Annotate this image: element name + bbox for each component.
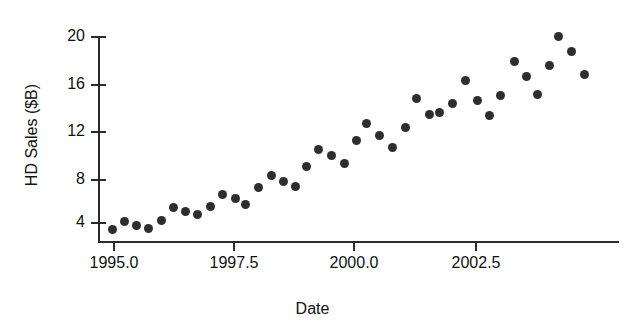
data-point [461, 76, 470, 85]
data-point [580, 70, 589, 79]
y-tick-mark [91, 179, 106, 181]
y-tick-mark [91, 222, 106, 224]
data-point [510, 57, 519, 66]
data-point [567, 47, 576, 56]
data-point [362, 119, 371, 128]
y-tick-label: 20 [51, 28, 85, 44]
data-point [279, 177, 288, 186]
scatter-plot-figure: 20161284 1995.01997.52000.02002.5 HD Sal… [0, 0, 625, 334]
data-point [108, 225, 117, 234]
data-point [206, 202, 215, 211]
data-point [473, 96, 482, 105]
data-point [169, 203, 178, 212]
data-point [388, 143, 397, 152]
data-point [327, 151, 336, 160]
x-tick-mark [233, 242, 235, 251]
data-point [425, 110, 434, 119]
data-point [241, 200, 250, 209]
data-point [144, 224, 153, 233]
x-tick-mark [353, 242, 355, 251]
data-point [375, 131, 384, 140]
data-point [132, 221, 141, 230]
y-tick-mark [91, 84, 106, 86]
y-axis-title: HD Sales ($B) [23, 84, 41, 186]
x-tick-label: 2000.0 [314, 254, 394, 272]
data-point [401, 123, 410, 132]
y-tick-mark [91, 131, 106, 133]
data-point [267, 171, 276, 180]
data-point [291, 182, 300, 191]
data-point [448, 99, 457, 108]
x-tick-label: 2002.5 [436, 254, 516, 272]
data-point [352, 136, 361, 145]
x-axis-title: Date [0, 300, 625, 318]
data-point [554, 32, 563, 41]
data-point [533, 90, 542, 99]
x-tick-mark [113, 242, 115, 251]
data-point [314, 145, 323, 154]
data-point [157, 216, 166, 225]
data-point [254, 183, 263, 192]
x-tick-label: 1997.5 [194, 254, 274, 272]
y-tick-label: 16 [51, 76, 85, 92]
x-tick-label: 1995.0 [74, 254, 154, 272]
data-point [120, 217, 129, 226]
y-tick-mark [91, 36, 106, 38]
data-point [496, 91, 505, 100]
data-point [435, 108, 444, 117]
x-tick-mark [475, 242, 477, 251]
data-point [193, 210, 202, 219]
data-point [412, 94, 421, 103]
data-point [545, 61, 554, 70]
x-axis-line [98, 241, 619, 243]
data-point [340, 159, 349, 168]
data-point [522, 72, 531, 81]
y-tick-label: 4 [51, 214, 85, 230]
data-point [485, 111, 494, 120]
y-axis-line [98, 37, 100, 243]
y-tick-label: 8 [51, 171, 85, 187]
data-point [231, 194, 240, 203]
y-tick-label: 12 [51, 123, 85, 139]
data-point [218, 190, 227, 199]
data-point [181, 207, 190, 216]
data-point [302, 162, 311, 171]
